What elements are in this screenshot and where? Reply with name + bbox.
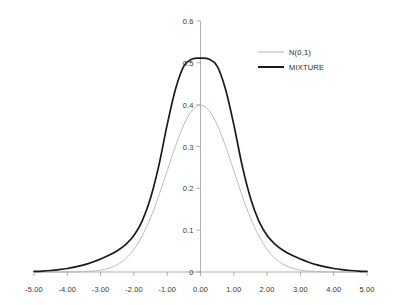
legend-item-mixture[interactable]: MIXTURE [258, 60, 368, 74]
legend-label-mixture: MIXTURE [289, 63, 324, 72]
x-axis-tick-label: 5.00 [360, 285, 375, 294]
y-axis-tick-label: 0.5 [0, 58, 194, 67]
legend-item-normal[interactable]: N(0,1) [258, 45, 368, 59]
x-axis-tick-label: -1.00 [158, 285, 176, 294]
chart-legend: N(0,1) MIXTURE [258, 45, 368, 75]
x-axis-tick-label: 1.00 [226, 285, 241, 294]
y-axis-tick-label: 0 [0, 268, 194, 277]
y-axis-tick-label: 0.4 [0, 100, 194, 109]
y-axis-tick-label: 0.2 [0, 184, 194, 193]
x-axis-tick-label: 4.00 [326, 285, 341, 294]
legend-label-normal: N(0,1) [289, 48, 311, 57]
y-axis-tick-label: 0.1 [0, 226, 194, 235]
x-axis-tick-label: -3.00 [92, 285, 110, 294]
probability-density-chart: -5.00-4.00-3.00-2.00-1.000.001.002.003.0… [0, 0, 403, 305]
x-axis-tick-label: -2.00 [125, 285, 143, 294]
x-axis-tick-label: 3.00 [293, 285, 308, 294]
x-axis-tick-label: 0.00 [193, 285, 208, 294]
y-axis-tick-label: 0.6 [0, 17, 194, 26]
legend-swatch-normal-line [258, 50, 284, 54]
legend-swatch-mixture-line [258, 65, 284, 69]
x-axis-tick-label: -4.00 [58, 285, 76, 294]
x-axis-tick-label: 2.00 [260, 285, 275, 294]
x-axis-tick-label: -5.00 [25, 285, 43, 294]
y-axis-tick-label: 0.3 [0, 142, 194, 151]
